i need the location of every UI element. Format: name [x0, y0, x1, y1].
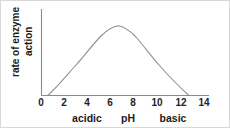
x-tick-12: 12 — [175, 97, 187, 108]
x-tick-10: 10 — [151, 97, 163, 108]
x-tick-8: 8 — [130, 97, 136, 108]
chart-canvas: 0 2 4 6 8 10 12 14 acidic pH basic rate … — [1, 1, 230, 128]
y-axis-label-line1: rate of enzyme — [10, 7, 21, 77]
enzyme-ph-chart: 0 2 4 6 8 10 12 14 acidic pH basic rate … — [0, 0, 230, 128]
x-tick-14: 14 — [198, 97, 210, 108]
x-tick-6: 6 — [107, 97, 113, 108]
acidic-region-label: acidic — [72, 112, 102, 124]
ph-axis-label: pH — [121, 112, 135, 124]
basic-region-label: basic — [160, 112, 187, 124]
y-axis-label-line2: action — [23, 27, 34, 56]
y-axis-label-group: rate of enzyme action — [10, 7, 34, 77]
x-tick-4: 4 — [84, 97, 90, 108]
enzyme-activity-curve — [48, 26, 189, 96]
x-tick-0: 0 — [38, 97, 44, 108]
x-tick-2: 2 — [61, 97, 67, 108]
